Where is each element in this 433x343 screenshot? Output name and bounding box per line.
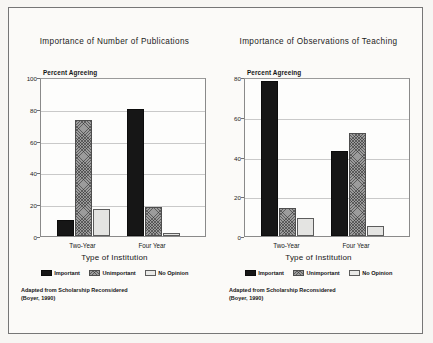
legend-label: Important (54, 270, 80, 276)
gridline (41, 174, 205, 175)
figure-page: Importance of Number of Publications Per… (0, 0, 433, 343)
chart-panel-publications: Importance of Number of Publications Per… (11, 8, 218, 333)
y-axis-tick-label: 80 (30, 106, 37, 113)
legend-item-important: Important (41, 270, 80, 276)
bar-no-opinion-four-year (163, 233, 180, 236)
figure-frame: Importance of Number of Publications Per… (8, 7, 423, 334)
x-axis-title: Type of Institution (215, 253, 422, 262)
gridline (41, 206, 205, 207)
y-axis-tick-label: 60 (30, 138, 37, 145)
x-axis-title: Type of Institution (11, 253, 218, 262)
y-axis-tick-label: 80 (234, 75, 241, 82)
plot-area (40, 78, 206, 237)
legend-label: No Opinion (158, 270, 188, 276)
y-axis-tick-label: 20 (234, 194, 241, 201)
source-note-line-1: Adapted from Scholarship Reconsidered (229, 286, 336, 294)
y-axis-tick-mark (241, 78, 244, 79)
bar-unimportant-two-year (279, 208, 296, 236)
legend-label: No Opinion (362, 270, 392, 276)
legend-item-no-opinion: No Opinion (349, 270, 393, 276)
y-axis-tick-mark (241, 118, 244, 119)
x-axis-category-label: Four Year (138, 242, 165, 249)
y-axis-tick-mark (37, 205, 40, 206)
bar-important-four-year (331, 151, 348, 236)
bar-no-opinion-two-year (297, 218, 314, 236)
plot-area (244, 78, 410, 237)
y-axis-tick-mark (37, 237, 40, 238)
y-axis-tick-mark (241, 158, 244, 159)
y-axis-tick-label: 60 (234, 114, 241, 121)
y-axis-caption: Percent Agreeing (43, 69, 97, 76)
y-axis-tick-mark (37, 78, 40, 79)
y-axis-caption: Percent Agreeing (247, 69, 301, 76)
bar-unimportant-four-year (349, 133, 366, 236)
bar-important-two-year (57, 220, 74, 236)
chart-legend: ImportantUnimportantNo Opinion (11, 270, 218, 276)
legend-item-no-opinion: No Opinion (145, 270, 189, 276)
source-note: Adapted from Scholarship Reconsidered(Bo… (229, 286, 336, 303)
legend-item-unimportant: Unimportant (89, 270, 136, 276)
bar-unimportant-two-year (75, 120, 92, 236)
gridline (41, 143, 205, 144)
bar-no-opinion-four-year (367, 226, 384, 236)
legend-swatch-icon (349, 270, 360, 276)
legend-label: Unimportant (306, 270, 339, 276)
y-axis-tick-label: 40 (234, 154, 241, 161)
y-axis-tick-mark (37, 110, 40, 111)
bar-no-opinion-two-year (93, 209, 110, 236)
y-axis-tick-mark (241, 237, 244, 238)
chart-panel-observations: Importance of Observations of Teaching P… (215, 8, 422, 333)
legend-item-unimportant: Unimportant (293, 270, 340, 276)
y-axis-tick-mark (37, 142, 40, 143)
legend-swatch-icon (293, 270, 304, 276)
legend-swatch-icon (89, 270, 100, 276)
chart-title: Importance of Observations of Teaching (215, 37, 422, 46)
legend-swatch-icon (245, 270, 256, 276)
gridline (41, 111, 205, 112)
y-axis-tick-mark (37, 173, 40, 174)
y-axis-tick-label: 100 (27, 75, 37, 82)
bar-unimportant-four-year (145, 207, 162, 236)
legend-label: Unimportant (102, 270, 135, 276)
source-note-line-2: (Boyer, 1990) (229, 294, 336, 302)
bar-important-four-year (127, 109, 144, 236)
bar-important-two-year (261, 81, 278, 236)
y-axis-tick-mark (241, 197, 244, 198)
source-note-line-1: Adapted from Scholarship Reconsidered (21, 286, 128, 294)
legend-swatch-icon (41, 270, 52, 276)
source-note-line-2: (Boyer, 1990) (21, 294, 128, 302)
x-axis-category-label: Two-Year (273, 242, 299, 249)
legend-item-important: Important (245, 270, 284, 276)
chart-title: Importance of Number of Publications (11, 37, 218, 46)
x-axis-category-label: Four Year (342, 242, 369, 249)
y-axis-tick-label: 40 (30, 170, 37, 177)
legend-label: Important (258, 270, 284, 276)
legend-swatch-icon (145, 270, 156, 276)
chart-legend: ImportantUnimportantNo Opinion (215, 270, 422, 276)
x-axis-category-label: Two-Year (69, 242, 95, 249)
source-note: Adapted from Scholarship Reconsidered(Bo… (21, 286, 128, 303)
y-axis-tick-label: 20 (30, 202, 37, 209)
